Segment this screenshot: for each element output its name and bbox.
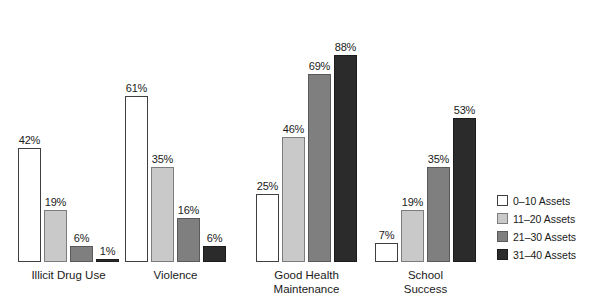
bar-value-label: 42%	[19, 134, 40, 146]
legend-item-label: 31–40 Assets	[513, 249, 576, 261]
bar-value-label: 19%	[402, 196, 423, 208]
bar[interactable]	[427, 167, 450, 262]
bar-slot: 53%	[453, 41, 476, 262]
bar[interactable]	[203, 246, 226, 262]
grouped-bar-chart: 42%19%6%1%Illicit Drug Use61%35%16%6%Vio…	[0, 0, 591, 303]
bar-group-bars: 7%19%35%53%	[375, 41, 476, 262]
legend-item-label: 0–10 Assets	[513, 195, 570, 207]
bar-group: 7%19%35%53%School Success	[375, 41, 476, 262]
legend-swatch-icon	[497, 195, 508, 206]
plot-area: 42%19%6%1%Illicit Drug Use61%35%16%6%Vio…	[0, 0, 490, 303]
bar-group: 25%46%69%88%Good Health Maintenance	[256, 41, 357, 262]
bar[interactable]	[151, 167, 174, 262]
bar-slot: 46%	[282, 41, 305, 262]
bar[interactable]	[44, 210, 67, 262]
bar-slot: 6%	[70, 41, 93, 262]
bar-value-label: 69%	[309, 60, 330, 72]
chart-legend: 0–10 Assets11–20 Assets21–30 Assets31–40…	[497, 193, 591, 265]
group-axis-label: Violence	[125, 268, 226, 282]
bar-group-bars: 25%46%69%88%	[256, 41, 357, 262]
bar[interactable]	[308, 74, 331, 262]
legend-swatch-icon	[497, 231, 508, 242]
legend-swatch-icon	[497, 249, 508, 260]
bar-value-label: 19%	[45, 196, 66, 208]
bar[interactable]	[453, 118, 476, 262]
bar-group-bars: 61%35%16%6%	[125, 41, 226, 262]
bar[interactable]	[401, 210, 424, 262]
legend-item-label: 11–20 Assets	[513, 213, 575, 225]
bar[interactable]	[334, 55, 357, 262]
bar[interactable]	[375, 243, 398, 262]
bar-slot: 7%	[375, 41, 398, 262]
bar-slot: 25%	[256, 41, 279, 262]
bar-value-label: 6%	[74, 232, 90, 244]
bar-slot: 6%	[203, 41, 226, 262]
bar-value-label: 1%	[100, 245, 116, 257]
bar-slot: 61%	[125, 41, 148, 262]
bar-value-label: 16%	[178, 204, 199, 216]
bar-slot: 42%	[18, 41, 41, 262]
legend-item[interactable]: 31–40 Assets	[497, 247, 591, 262]
bar-group: 61%35%16%6%Violence	[125, 41, 226, 262]
bar-value-label: 35%	[428, 153, 449, 165]
group-axis-label: Good Health Maintenance	[256, 268, 357, 296]
bar[interactable]	[125, 96, 148, 262]
bar-value-label: 53%	[454, 104, 475, 116]
bar-slot: 35%	[151, 41, 174, 262]
group-axis-label: School Success	[375, 268, 476, 296]
bar-value-label: 46%	[283, 123, 304, 135]
bar-value-label: 61%	[126, 82, 147, 94]
bar-slot: 35%	[427, 41, 450, 262]
bar-group-bars: 42%19%6%1%	[18, 41, 119, 262]
bar-value-label: 35%	[152, 153, 173, 165]
bar[interactable]	[282, 137, 305, 262]
bar-group: 42%19%6%1%Illicit Drug Use	[18, 41, 119, 262]
bar-slot: 19%	[401, 41, 424, 262]
bar[interactable]	[18, 148, 41, 262]
bar-slot: 16%	[177, 41, 200, 262]
bar[interactable]	[70, 246, 93, 262]
group-axis-label: Illicit Drug Use	[18, 268, 119, 282]
legend-item[interactable]: 21–30 Assets	[497, 229, 591, 244]
bar-slot: 69%	[308, 41, 331, 262]
bar[interactable]	[177, 218, 200, 262]
bar[interactable]	[96, 259, 119, 262]
bar-value-label: 7%	[379, 229, 395, 241]
bar-slot: 1%	[96, 41, 119, 262]
bar-value-label: 88%	[335, 41, 356, 53]
bar-slot: 88%	[334, 41, 357, 262]
bar-slot: 19%	[44, 41, 67, 262]
legend-item[interactable]: 0–10 Assets	[497, 193, 591, 208]
bar-value-label: 25%	[257, 180, 278, 192]
legend-item[interactable]: 11–20 Assets	[497, 211, 591, 226]
bar-value-label: 6%	[207, 232, 223, 244]
bar[interactable]	[256, 194, 279, 262]
legend-swatch-icon	[497, 213, 508, 224]
legend-item-label: 21–30 Assets	[513, 231, 576, 243]
